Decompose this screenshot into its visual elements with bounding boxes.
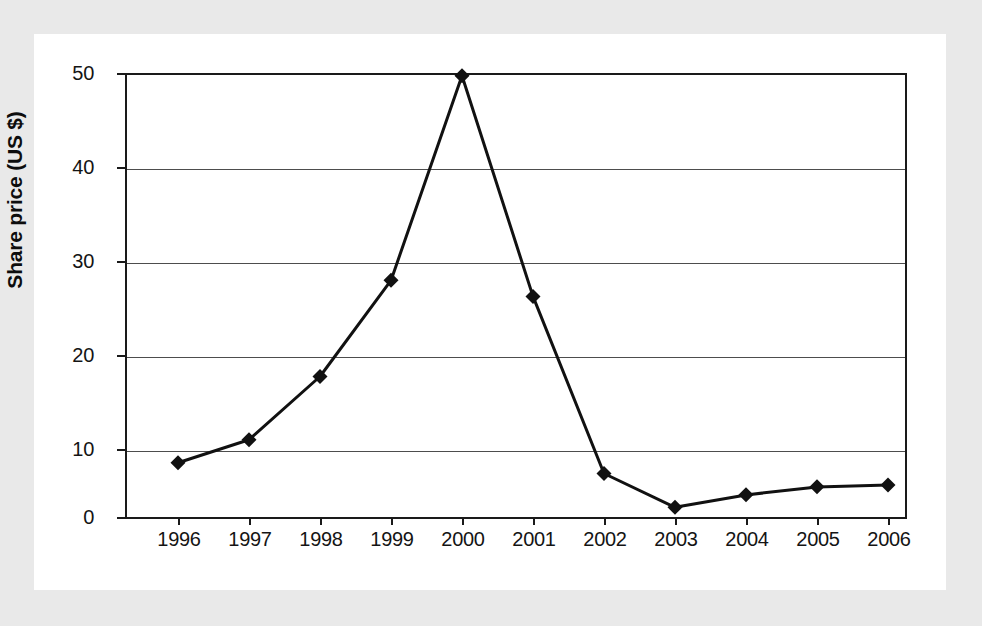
gridline-30 <box>127 263 905 264</box>
x-tick-mark-2003 <box>675 517 677 525</box>
gridline-10 <box>127 451 905 452</box>
scan-border-right <box>946 0 982 626</box>
x-tick-mark-1999 <box>391 517 393 525</box>
y-tick-label-40: 40 <box>72 156 94 179</box>
chart-page: Share price (US $) 50 40 30 20 10 0 <box>0 0 982 626</box>
y-tick-label-20: 20 <box>72 344 94 367</box>
gridline-40 <box>127 169 905 170</box>
chart-plot-area <box>125 73 907 519</box>
x-tick-label-2006: 2006 <box>844 528 934 551</box>
y-axis-title: Share price (US $) <box>3 35 27 365</box>
x-tick-mark-2002 <box>604 517 606 525</box>
x-tick-mark-2006 <box>888 517 890 525</box>
scan-border-top <box>0 0 982 38</box>
x-tick-mark-2001 <box>533 517 535 525</box>
x-tick-mark-1996 <box>178 517 180 525</box>
y-tick-label-0: 0 <box>83 506 94 529</box>
scan-border-bottom <box>0 588 982 626</box>
x-tick-mark-1998 <box>320 517 322 525</box>
y-tick-label-30: 30 <box>72 250 94 273</box>
gridline-20 <box>127 357 905 358</box>
y-tick-label-10: 10 <box>72 438 94 461</box>
x-tick-mark-2004 <box>746 517 748 525</box>
y-tick-label-50: 50 <box>72 62 94 85</box>
x-tick-mark-1997 <box>249 517 251 525</box>
x-tick-mark-2005 <box>817 517 819 525</box>
x-tick-mark-2000 <box>462 517 464 525</box>
